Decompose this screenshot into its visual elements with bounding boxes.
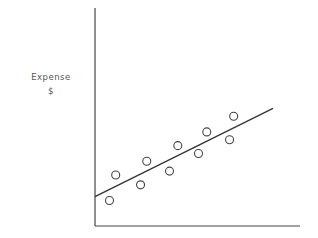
data-point — [137, 181, 145, 189]
data-point — [226, 136, 234, 144]
scatter-plot — [0, 0, 318, 238]
data-point — [105, 197, 113, 205]
data-point — [203, 128, 211, 136]
data-point — [166, 167, 174, 175]
data-point — [230, 112, 238, 120]
data-point — [195, 149, 203, 157]
data-point — [143, 157, 151, 165]
data-point — [112, 171, 120, 179]
trend-line — [95, 108, 273, 196]
data-point — [174, 142, 182, 150]
